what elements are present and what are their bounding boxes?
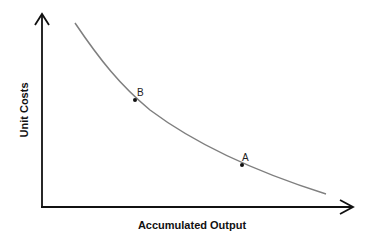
y-axis-label: Unit Costs [18,83,30,138]
point-b-marker [133,98,137,102]
point-a-label: A [242,152,249,163]
point-b-label: B [137,87,144,98]
experience-curve-line [75,23,326,194]
x-axis-label: Accumulated Output [138,219,247,231]
experience-curve-chart: B A Accumulated Output Unit Costs [0,0,372,243]
point-a-marker [240,163,244,167]
